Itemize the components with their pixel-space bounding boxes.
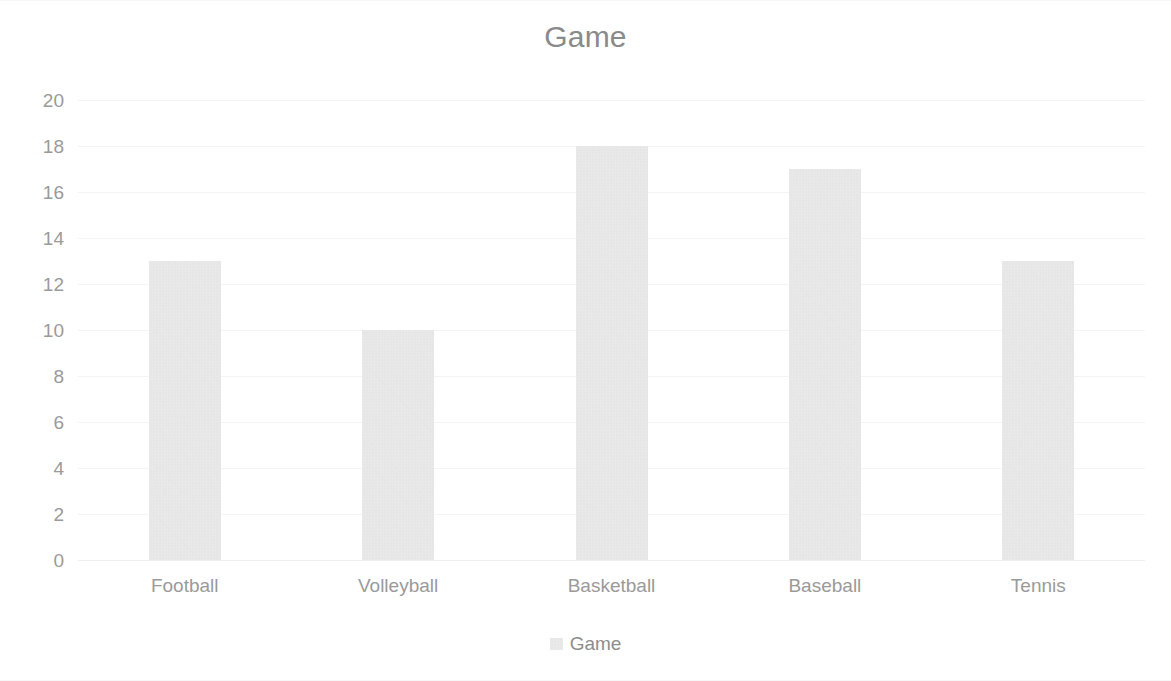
y-tick-label-18: 18 [14, 137, 64, 156]
y-tick-label-2: 2 [14, 505, 64, 524]
chart-legend: Game [0, 634, 1171, 653]
x-tick-label-tennis: Tennis [932, 576, 1145, 595]
y-tick-label-8: 8 [14, 367, 64, 386]
gridline-0 [78, 560, 1145, 561]
x-tick-label-football: Football [78, 576, 291, 595]
bar-tennis[interactable] [1002, 261, 1074, 560]
y-tick-label-20: 20 [14, 91, 64, 110]
y-tick-label-4: 4 [14, 459, 64, 478]
bar-chart: Game 20181614121086420 FootballVolleybal… [0, 0, 1171, 681]
chart-title: Game [0, 22, 1171, 52]
y-tick-label-10: 10 [14, 321, 64, 340]
legend-entry-game[interactable]: Game [550, 634, 622, 653]
x-axis: FootballVolleyballBasketballBaseballTenn… [78, 576, 1145, 606]
legend-swatch-icon [550, 638, 563, 650]
legend-label: Game [570, 634, 622, 653]
bar-basketball[interactable] [576, 146, 648, 560]
bar-baseball[interactable] [789, 169, 861, 560]
x-tick-label-baseball: Baseball [718, 576, 931, 595]
page-edge-top [0, 0, 1171, 1]
x-tick-label-basketball: Basketball [505, 576, 718, 595]
gridline-20 [78, 100, 1145, 101]
bar-volleyball[interactable] [362, 330, 434, 560]
plot-area [78, 100, 1145, 560]
x-tick-label-volleyball: Volleyball [291, 576, 504, 595]
y-tick-label-6: 6 [14, 413, 64, 432]
y-tick-label-12: 12 [14, 275, 64, 294]
y-axis: 20181614121086420 [8, 100, 64, 560]
y-tick-label-16: 16 [14, 183, 64, 202]
bar-football[interactable] [149, 261, 221, 560]
y-tick-label-0: 0 [14, 551, 64, 570]
y-tick-label-14: 14 [14, 229, 64, 248]
